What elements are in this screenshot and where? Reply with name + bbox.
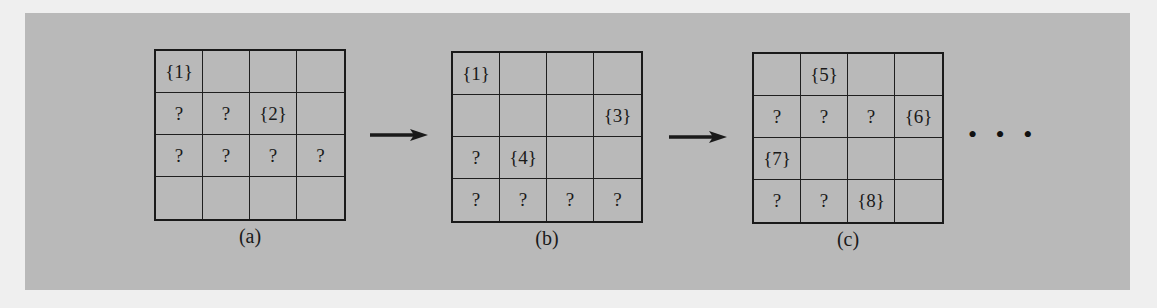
grid-cell: {7}: [754, 138, 801, 180]
grid-cell: {5}: [801, 54, 848, 96]
grid-cell: [250, 177, 297, 219]
grid-c: {5} ? ? ? {6} {7} ? ? {8}: [752, 52, 944, 224]
grid-cell: ?: [203, 135, 250, 177]
grid-cell: ?: [453, 179, 500, 221]
grid-cell: [500, 53, 547, 95]
grid-cell: [297, 177, 344, 219]
grid-cell: [203, 177, 250, 219]
grid-cell: [895, 180, 942, 222]
grid-cell: [453, 95, 500, 137]
grid-cell: [754, 54, 801, 96]
grid-cell: [250, 51, 297, 93]
grid-cell: [297, 51, 344, 93]
grid-cell: ?: [156, 93, 203, 135]
grid-a: {1} ? ? {2} ? ? ? ?: [154, 49, 346, 221]
panel-label-b: (b): [451, 227, 643, 250]
panel-label-c: (c): [752, 228, 944, 251]
grid-cell: {6}: [895, 96, 942, 138]
grid-cell: [848, 138, 895, 180]
grid-cell: [547, 53, 594, 95]
panel-label-a: (a): [154, 225, 346, 248]
grid-cell: ?: [453, 137, 500, 179]
grid-cell: [594, 137, 641, 179]
grid-cell: ?: [754, 180, 801, 222]
grid-cell: ?: [801, 180, 848, 222]
grid-cell: [594, 53, 641, 95]
arrow-right-icon: [669, 130, 727, 144]
grid-cell: {4}: [500, 137, 547, 179]
grid-cell: ?: [297, 135, 344, 177]
grid-cell: ?: [801, 96, 848, 138]
grid-cell: [500, 95, 547, 137]
grid-b: {1} {3} ? {4} ? ? ? ?: [451, 51, 643, 223]
grid-cell: ?: [250, 135, 297, 177]
grid-cell: {3}: [594, 95, 641, 137]
arrow-right-icon: [370, 128, 428, 142]
grid-cell: [156, 177, 203, 219]
grid-cell: ?: [848, 96, 895, 138]
grid-cell: [895, 54, 942, 96]
grid-panel-a: {1} ? ? {2} ? ? ? ? (a): [154, 49, 346, 248]
grid-cell: ?: [754, 96, 801, 138]
grid-cell: [801, 138, 848, 180]
grid-cell: [895, 138, 942, 180]
grid-cell: [848, 54, 895, 96]
grid-cell: {2}: [250, 93, 297, 135]
ellipsis-icon: • • •: [968, 120, 1038, 150]
grid-cell: ?: [594, 179, 641, 221]
grid-cell: [547, 137, 594, 179]
grid-cell: [547, 95, 594, 137]
grid-panel-b: {1} {3} ? {4} ? ? ? ? (b): [451, 51, 643, 250]
grid-cell: {1}: [453, 53, 500, 95]
grid-cell: {1}: [156, 51, 203, 93]
grid-cell: ?: [547, 179, 594, 221]
grid-cell: ?: [156, 135, 203, 177]
grid-cell: {8}: [848, 180, 895, 222]
grid-cell: [203, 51, 250, 93]
grid-cell: ?: [203, 93, 250, 135]
grid-cell: ?: [500, 179, 547, 221]
grid-cell: [297, 93, 344, 135]
grid-panel-c: {5} ? ? ? {6} {7} ? ? {8} (c): [752, 52, 944, 251]
